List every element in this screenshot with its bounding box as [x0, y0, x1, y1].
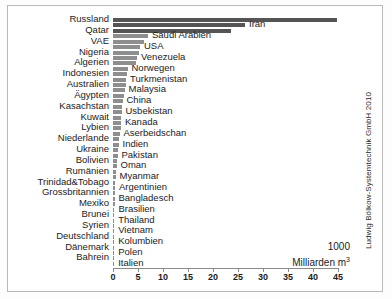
bar-row: Venezuela: [0, 56, 392, 61]
bar-polen: [113, 251, 114, 255]
chart-figure: RusslandIranQatarSaudi ArabienVAEUSANige…: [0, 0, 392, 299]
bar-row: Rumänien: [0, 170, 392, 175]
bar-label-d-nemark: Dänemark: [65, 241, 109, 252]
bar-thailand: [113, 219, 114, 223]
bar-label-usbekistan: Usbekistan: [126, 105, 173, 116]
bar-label-brunei: Brunei: [82, 208, 109, 219]
bar--gypten: [113, 94, 124, 98]
bar-russland: [113, 18, 337, 22]
x-tick-label-25: 25: [233, 272, 243, 282]
bar-label-myanmar: Myanmar: [120, 170, 160, 181]
bar-brasilien: [113, 208, 114, 212]
bar-pakistan: [113, 154, 118, 158]
bar-aserbeidschan: [113, 132, 120, 136]
bar-label-china: China: [127, 94, 152, 105]
bar-label-ukraine: Ukraine: [76, 143, 109, 154]
bar-grossbritannien: [113, 191, 115, 195]
bar-brunei: [113, 213, 114, 217]
bar-label-bolivien: Bolivien: [76, 154, 109, 165]
bar-label-kasachstan: Kasachstan: [59, 100, 109, 111]
bar-label-thailand: Thailand: [118, 214, 154, 225]
bar-label-kolumbien: Kolumbien: [118, 235, 163, 246]
x-tick-label-5: 5: [135, 272, 140, 282]
bar-row: Brunei: [0, 213, 392, 218]
bar-syrien: [113, 224, 114, 228]
bar-saudi-arabien: [113, 34, 148, 38]
bar-italien: [113, 262, 114, 266]
bar-label-australien: Australien: [67, 78, 109, 89]
bar-usa: [113, 45, 140, 49]
bar-row: Norwegen: [0, 67, 392, 72]
bar-label-pakistan: Pakistan: [122, 149, 158, 160]
bar-row: Bangladesch: [0, 197, 392, 202]
bar-row: Indien: [0, 143, 392, 148]
bar-label-saudi-arabien: Saudi Arabien: [152, 29, 211, 40]
bar-label-vae: VAE: [91, 35, 109, 46]
bar-row: Kuwait: [0, 116, 392, 121]
x-tick-label-35: 35: [283, 272, 293, 282]
bar-row: Thailand: [0, 219, 392, 224]
bar-label--gypten: Ägypten: [74, 89, 109, 100]
bar-argentinien: [113, 186, 115, 190]
bar-row: VAE: [0, 40, 392, 45]
bar-label-grossbritannien: Grossbritannien: [42, 186, 109, 197]
x-tick-label-10: 10: [158, 272, 168, 282]
bar-row: Algerien: [0, 61, 392, 66]
bar-row: USA: [0, 45, 392, 50]
bar-label-usa: USA: [144, 40, 164, 51]
bar-row: Mexiko: [0, 202, 392, 207]
bar-row: Grossbritannien: [0, 191, 392, 196]
bar-malaysia: [113, 88, 125, 92]
bar-label-polen: Polen: [118, 246, 142, 257]
bar-bolivien: [113, 159, 117, 163]
bar-label-kanada: Kanada: [125, 116, 158, 127]
bar-label-qatar: Qatar: [85, 24, 109, 35]
bar-kanada: [113, 121, 121, 125]
bar-australien: [113, 83, 126, 87]
bar-niederlande: [113, 137, 119, 141]
bar-indien: [113, 143, 119, 147]
bar-venezuela: [113, 56, 137, 60]
unit-value: 1000: [292, 240, 350, 253]
bar-row: Lybien: [0, 126, 392, 131]
bar-kolumbien: [113, 240, 114, 244]
bar-label-turkmenistan: Turkmenistan: [130, 73, 187, 84]
x-tick-label-0: 0: [110, 272, 115, 282]
copyright-credit: Ludwig Bölkow-Systemtechnik GmbH 2010: [364, 92, 373, 249]
bar-mexiko: [113, 202, 115, 206]
bar-label-indien: Indien: [123, 138, 149, 149]
bar-label-kuwait: Kuwait: [80, 111, 109, 122]
bar-label-argentinien: Argentinien: [119, 181, 167, 192]
bar-turkmenistan: [113, 78, 126, 82]
bar-myanmar: [113, 175, 116, 179]
bar-row: Oman: [0, 164, 392, 169]
bar-label-syrien: Syrien: [82, 219, 109, 230]
bar-vietnam: [113, 229, 114, 233]
bar-oman: [113, 164, 117, 168]
bar-row: Iran: [0, 23, 392, 28]
bar-row: Niederlande: [0, 137, 392, 142]
bar-row: Saudi Arabien: [0, 34, 392, 39]
bar-kuwait: [113, 116, 121, 120]
bar-label-norwegen: Norwegen: [132, 62, 175, 73]
x-tick-label-40: 40: [308, 272, 318, 282]
bar-row: Bolivien: [0, 159, 392, 164]
x-tick-label-30: 30: [258, 272, 268, 282]
bar-label-vietnam: Vietnam: [118, 224, 153, 235]
bar-lybien: [113, 126, 121, 130]
bar-indonesien: [113, 72, 127, 76]
bar-label-mexiko: Mexiko: [79, 197, 109, 208]
bar-label-brasilien: Brasilien: [118, 203, 154, 214]
bar-label-deutschland: Deutschland: [56, 230, 109, 241]
bar-label-venezuela: Venezuela: [141, 51, 185, 62]
bar-usbekistan: [113, 110, 122, 114]
bar-row: Kanada: [0, 121, 392, 126]
bar-label-bahrein: Bahrein: [76, 251, 109, 262]
bar-label-trinidad-tobago: Trinidad&Tobago: [38, 176, 109, 187]
x-tick-label-45: 45: [333, 272, 343, 282]
bar-row: Brasilien: [0, 208, 392, 213]
bar-row: Indonesien: [0, 72, 392, 77]
bar-rum-nien: [113, 170, 116, 174]
bar-label-indonesien: Indonesien: [63, 67, 109, 78]
bar-label-malaysia: Malaysia: [129, 83, 167, 94]
